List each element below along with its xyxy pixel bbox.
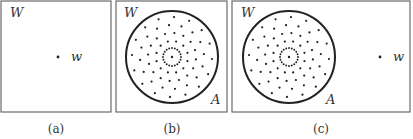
ring-dot-b xyxy=(150,45,152,47)
ring-dot-b xyxy=(174,47,176,49)
ring-dot-b xyxy=(201,65,203,67)
ring-dot-c xyxy=(277,67,279,69)
ring-dot-c xyxy=(299,67,301,69)
ring-dot-b xyxy=(178,79,180,81)
ring-dot-b xyxy=(160,45,162,47)
ring-dot-c xyxy=(272,60,274,62)
ring-dot-b xyxy=(169,80,171,82)
ring-dot-b xyxy=(182,67,184,69)
ring-dot-c xyxy=(267,45,269,47)
ring-dot-b xyxy=(150,81,152,83)
ring-dot-c xyxy=(292,71,294,73)
ring-dot-b xyxy=(166,63,168,65)
ring-dot-b xyxy=(186,84,188,86)
ring-dot-c xyxy=(318,65,320,67)
ring-dot-c xyxy=(292,40,294,42)
ring-dot-c xyxy=(248,54,250,56)
ring-dot-b xyxy=(147,54,149,56)
ring-dot-c xyxy=(299,35,301,37)
ring-dot-c xyxy=(284,71,286,73)
ring-dot-b xyxy=(160,67,162,69)
ring-dot-c xyxy=(283,49,285,51)
ring-dot-b xyxy=(173,16,175,18)
ring-dot-c xyxy=(295,79,297,81)
ring-dot-c xyxy=(263,35,265,37)
ring-dot-c xyxy=(315,86,317,88)
ring-dot-c xyxy=(273,28,275,30)
ring-dot-c xyxy=(260,71,262,73)
ring-dot-b xyxy=(201,29,203,31)
ring-dot-c xyxy=(267,81,269,83)
ring-dot-c xyxy=(291,47,293,49)
ring-dot-c xyxy=(295,51,297,53)
ring-dot-b xyxy=(196,76,198,78)
ring-dot-b xyxy=(180,25,182,27)
ring-dot-c xyxy=(279,56,281,58)
ring-dot-b xyxy=(131,54,133,56)
ring-dot-b xyxy=(164,61,166,63)
ring-dot-b xyxy=(146,35,148,37)
caption-c: (c) xyxy=(313,122,329,136)
ring-dot-c xyxy=(286,80,288,82)
ring-dot-b xyxy=(160,77,162,79)
ring-dot-b xyxy=(175,40,177,42)
ring-dot-b xyxy=(168,24,170,26)
ring-dot-b xyxy=(168,47,170,49)
ring-dot-b xyxy=(139,59,141,61)
panel-c: W A w (c) xyxy=(232,1,410,136)
ring-dot-c xyxy=(252,39,254,41)
ring-dot-b xyxy=(148,63,150,65)
caption-b: (b) xyxy=(163,122,180,136)
ring-dot-b xyxy=(186,52,188,54)
figure: W w (a) W A (b) W A w (c) xyxy=(0,0,413,139)
ring-dot-b xyxy=(186,74,188,76)
ring-dot-c xyxy=(290,32,292,34)
point-label-a: w xyxy=(71,49,82,64)
ring-dot-b xyxy=(162,56,164,58)
ring-dot-c xyxy=(297,56,299,58)
ring-dot-b xyxy=(167,40,169,42)
ring-dot-b xyxy=(178,51,180,53)
ring-dot-c xyxy=(308,31,310,33)
ring-dot-b xyxy=(167,71,169,73)
ring-dot-b xyxy=(141,83,143,85)
ring-dot-c xyxy=(277,45,279,47)
center-dot-b xyxy=(171,56,173,58)
ring-dot-c xyxy=(303,52,305,54)
ring-dot-c xyxy=(301,94,303,96)
ring-dot-c xyxy=(284,40,286,42)
ring-dot-c xyxy=(303,60,305,62)
ring-dot-c xyxy=(312,58,314,60)
ring-dot-c xyxy=(309,67,311,69)
ring-dot-c xyxy=(285,65,287,67)
dot-pattern-c xyxy=(248,16,330,98)
ring-dot-b xyxy=(162,53,164,55)
ring-dot-b xyxy=(140,46,142,48)
caption-a: (a) xyxy=(48,122,65,136)
ring-dot-b xyxy=(194,49,196,51)
ring-dot-b xyxy=(171,47,173,49)
ring-dot-c xyxy=(288,47,290,49)
frame-label-c: W xyxy=(241,5,256,20)
frame-label-a: W xyxy=(10,5,25,20)
ring-dot-b xyxy=(161,86,163,88)
ring-dot-c xyxy=(320,53,322,55)
ring-dot-b xyxy=(162,59,164,61)
ring-dot-b xyxy=(191,31,193,33)
ring-dot-b xyxy=(143,71,145,73)
ring-dot-b xyxy=(173,32,175,34)
ring-dot-c xyxy=(318,29,320,31)
ring-dot-c xyxy=(306,41,308,43)
frame-label-b: W xyxy=(124,5,139,20)
ring-dot-c xyxy=(258,83,260,85)
ring-dot-b xyxy=(174,88,176,90)
ring-dot-b xyxy=(195,58,197,60)
ring-dot-b xyxy=(164,51,166,53)
ring-dot-b xyxy=(182,35,184,37)
ring-dot-c xyxy=(261,26,263,28)
ring-dot-c xyxy=(272,52,274,54)
ring-dot-c xyxy=(295,61,297,63)
ring-dot-b xyxy=(164,33,166,35)
ring-dot-c xyxy=(274,18,276,20)
ring-dot-c xyxy=(278,86,280,88)
